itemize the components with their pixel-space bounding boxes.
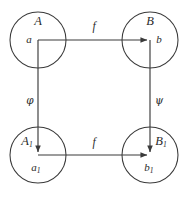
set-label-bottom-right: B1 [155,134,166,149]
map-label-left-phi: φ [26,94,34,106]
map-label-right-psi: ψ [155,94,164,106]
map-label-bottom-f: f [92,136,97,149]
set-label-bottom-left-subscript: 1 [29,140,33,149]
set-label-bottom-left: A1 [20,134,32,149]
diagram-canvas: A B A1 B1 a b a1 b1 f φ ψ f [0,0,188,198]
commutative-diagram: A B A1 B1 a b a1 b1 f φ ψ f [0,0,188,198]
element-label-b: b [156,33,162,45]
element-label-b1-subscript: 1 [150,165,154,174]
map-label-top-f: f [92,20,97,33]
element-label-a: a [26,33,32,45]
element-label-a1-subscript: 1 [37,165,41,174]
set-label-top-right: B [146,14,154,28]
set-label-top-left: A [33,14,42,28]
set-label-bottom-right-subscript: 1 [163,140,167,149]
element-label-b1: b1 [144,161,153,175]
set-label-bottom-left-base: A [20,134,29,148]
element-label-a1: a1 [31,161,40,175]
